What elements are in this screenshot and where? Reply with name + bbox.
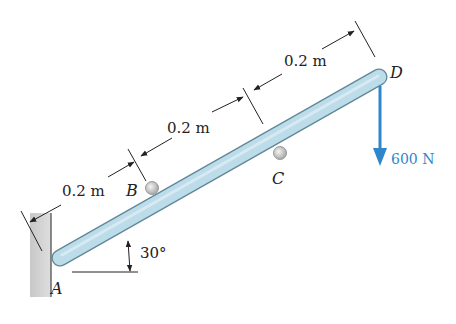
point-label-D: D — [389, 63, 403, 82]
pin-B — [146, 182, 159, 195]
dim-label-BC: 0.2 m — [167, 119, 210, 137]
point-label-A: A — [49, 279, 63, 298]
force-label: 600 N — [391, 151, 434, 167]
angle-label: 30° — [140, 244, 167, 262]
dim-label-AB: 0.2 m — [62, 182, 105, 200]
force-arrow-icon — [373, 86, 387, 166]
pin-C — [274, 147, 287, 160]
beam-diagram: 0.2 m 0.2 m 0.2 m 30° A B C D 600 N — [0, 0, 456, 324]
point-label-B: B — [125, 181, 138, 200]
point-label-C: C — [272, 169, 284, 188]
wall-support — [30, 213, 51, 297]
bar-AD — [60, 76, 379, 258]
dim-label-CD: 0.2 m — [284, 52, 327, 70]
